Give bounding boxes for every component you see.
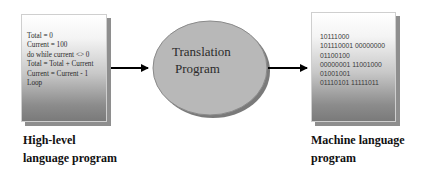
machine-code: 10111000101110001 0000000001100100000000…: [320, 32, 385, 88]
code-line: 101110001 00000000: [320, 41, 385, 50]
code-line: 01100100: [320, 51, 385, 60]
code-line: Loop: [27, 79, 93, 88]
translator-label-line2: Program: [172, 60, 258, 77]
high-level-code: Total = 0Current = 100do while current <…: [27, 32, 93, 88]
code-line: 01001001: [320, 69, 385, 78]
caption-line: program: [311, 149, 405, 167]
code-line: do while current <> 0: [27, 51, 93, 60]
caption-line: High-level: [23, 131, 117, 149]
code-line: 00000001 11001000: [320, 60, 385, 69]
translator-label: Translation Program: [172, 43, 258, 77]
caption-line: language program: [23, 149, 117, 167]
high-level-caption: High-level language program: [23, 131, 117, 167]
translator-label-line1: Translation: [172, 43, 258, 60]
code-line: 01110101 11111011: [320, 78, 385, 87]
code-line: Current = Current - 1: [27, 70, 93, 79]
code-line: Current = 100: [27, 41, 93, 50]
code-line: Total = 0: [27, 32, 93, 41]
machine-language-caption: Machine language program: [311, 131, 405, 167]
code-line: 10111000: [320, 32, 385, 41]
high-level-program-document: Total = 0Current = 100do while current <…: [21, 14, 107, 122]
code-line: Total = Total + Current: [27, 60, 93, 69]
caption-line: Machine language: [311, 131, 405, 149]
machine-language-document: 10111000101110001 0000000001100100000000…: [311, 12, 396, 122]
